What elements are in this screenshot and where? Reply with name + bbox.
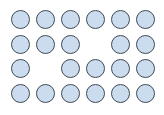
- circle-marker: [11, 84, 30, 103]
- circle-marker: [136, 10, 155, 29]
- circle-marker: [136, 59, 155, 78]
- circle-slot-empty: [86, 35, 105, 54]
- circle-marker: [61, 84, 80, 103]
- circle-marker: [86, 84, 105, 103]
- circle-marker: [136, 84, 155, 103]
- circle-marker: [61, 10, 80, 29]
- circle-marker: [11, 35, 30, 54]
- circle-marker: [61, 59, 80, 78]
- circle-grid-layer: [0, 0, 164, 115]
- circle-marker: [111, 84, 130, 103]
- circle-marker: [136, 35, 155, 54]
- circle-marker: [111, 59, 130, 78]
- circle-marker: [86, 10, 105, 29]
- circle-marker: [11, 10, 30, 29]
- circle-marker: [111, 35, 130, 54]
- circle-marker: [61, 35, 80, 54]
- circle-marker: [36, 84, 55, 103]
- circle-marker: [36, 10, 55, 29]
- circle-marker: [11, 59, 30, 78]
- circle-slot-empty: [36, 59, 55, 78]
- circle-marker: [111, 10, 130, 29]
- circle-marker: [36, 35, 55, 54]
- circle-grid-figure: [0, 0, 164, 115]
- circle-marker: [86, 59, 105, 78]
